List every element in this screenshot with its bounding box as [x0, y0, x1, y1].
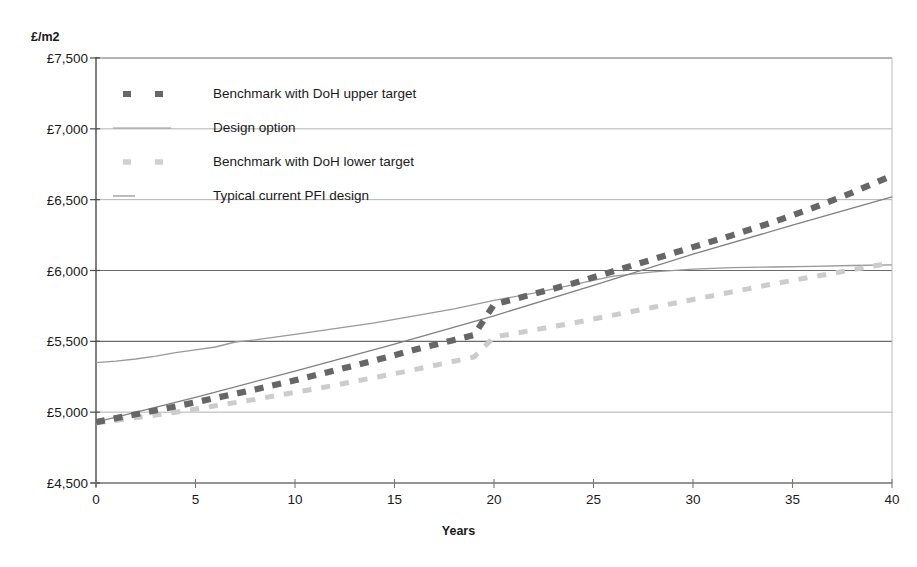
legend-marker: [113, 89, 205, 97]
legend-label: Typical current PFI design: [213, 188, 369, 203]
legend-marker: [113, 191, 205, 199]
legend-label: Design option: [213, 120, 296, 135]
x-axis-title: Years: [0, 524, 917, 538]
legend-label: Benchmark with DoH lower target: [213, 154, 414, 169]
legend-label: Benchmark with DoH upper target: [213, 86, 416, 101]
legend-marker: [113, 123, 205, 131]
series-line-benchmark-with-doh-upper-target: [96, 176, 892, 423]
chart-root: £/m2 £4,500£5,000£5,500£6,000£6,500£7,00…: [0, 0, 917, 567]
legend-marker: [113, 157, 205, 165]
series-line-benchmark-with-doh-lower-target: [96, 263, 892, 423]
series-line-typical-current-pfi-design: [96, 265, 892, 363]
plot-area: [0, 0, 917, 567]
